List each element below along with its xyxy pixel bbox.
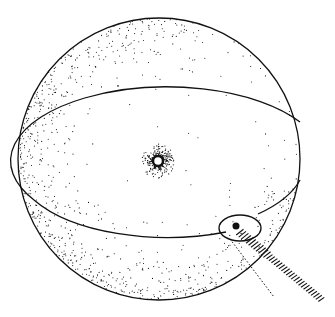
equator-ring-front	[34, 200, 226, 238]
equator-ring	[11, 87, 300, 200]
impact-marker-ring	[219, 215, 261, 241]
equator-ring-right	[258, 180, 300, 214]
center-source	[142, 144, 175, 179]
impact-point	[233, 223, 240, 230]
sphere-diagram	[0, 0, 335, 317]
